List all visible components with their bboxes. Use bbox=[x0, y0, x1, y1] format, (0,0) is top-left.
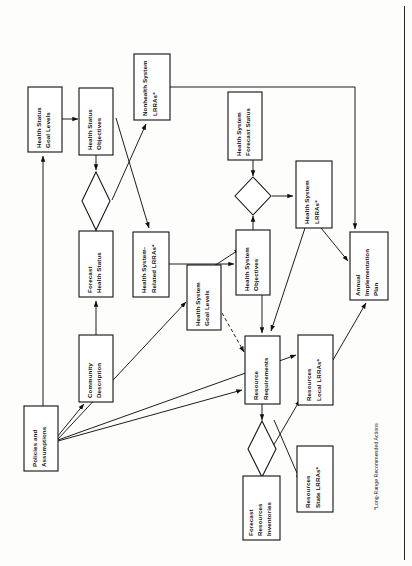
node-policies-and-assumptions[interactable]: Policies and Assumptions bbox=[24, 406, 58, 471]
node-health-status-objectives[interactable]: Health Status Objectives bbox=[79, 88, 113, 155]
node-label-line2: Health Status bbox=[95, 252, 102, 293]
node-health-system-goal-levels[interactable]: Health System Goal Levels bbox=[187, 265, 221, 330]
decision-resources bbox=[248, 421, 276, 477]
node-label-line2: LRRAs* bbox=[313, 200, 320, 224]
node-label-line2: Objectives bbox=[95, 117, 102, 150]
node-community-description[interactable]: Community Description bbox=[79, 335, 113, 402]
node-label-line1: Health System bbox=[235, 112, 242, 156]
edge-hs-lrras-to-resource-requirements bbox=[271, 228, 305, 331]
node-label-line1: Health System bbox=[243, 247, 250, 291]
node-resources-state-lrras[interactable]: Resources State LRRAs* bbox=[297, 446, 333, 512]
node-label-line1: Forecast bbox=[86, 266, 93, 293]
footnote-lrras-definition: *Long-Range Recommended Actions bbox=[373, 423, 379, 510]
node-label-line2: Goal Levels bbox=[203, 290, 210, 326]
node-label-line1: Community bbox=[86, 363, 93, 398]
node-label-line1: Health System bbox=[194, 282, 201, 326]
node-label-line1: Health Status bbox=[35, 107, 42, 148]
decision-health-system bbox=[235, 177, 271, 215]
flowchart-svg: Resource Requirements (DASHED) --> bbox=[0, 0, 412, 566]
node-label-line1: Health System- bbox=[140, 247, 147, 293]
node-label-line1: Annual bbox=[354, 274, 361, 296]
node-label-line2: State LRRAs* bbox=[314, 466, 321, 508]
node-label-line1: Nonhealth System bbox=[141, 60, 148, 116]
node-nonhealth-system-lrras[interactable]: Nonhealth System LRRAs* bbox=[134, 54, 170, 120]
node-label-line2: Requirements bbox=[262, 357, 269, 400]
node-label-line1: Forecast bbox=[247, 509, 254, 536]
node-label-line1: Health Status bbox=[86, 109, 93, 150]
edge-decision-res-to-resources-state-lrras bbox=[274, 420, 300, 480]
node-health-system-related-lrras[interactable]: Health System- Related LRRAs* bbox=[133, 232, 169, 297]
decision-health-status bbox=[82, 172, 110, 230]
node-label-line2: Local LRRAs* bbox=[315, 358, 322, 401]
decision-layer bbox=[82, 172, 276, 477]
node-health-system-objectives[interactable]: Health System Objectives bbox=[236, 230, 270, 295]
node-label-line3: Plan bbox=[372, 282, 379, 296]
node-label-line2: Implementation bbox=[363, 249, 370, 296]
edge-hs-lrras-to-annual-plan bbox=[321, 228, 348, 261]
node-label-line1: Policies and bbox=[31, 430, 38, 467]
node-resource-requirements[interactable]: Resource Requirements bbox=[245, 336, 280, 404]
figure-canvas: Resource Requirements (DASHED) --> bbox=[0, 0, 412, 566]
node-label-line2: Objectives bbox=[252, 258, 259, 291]
node-label-line1: Resources bbox=[304, 475, 311, 508]
node-label-line2: Forecast Status bbox=[244, 108, 251, 156]
node-label-line2: Resources bbox=[256, 503, 263, 536]
node-health-status-goal-levels[interactable]: Health Status Goal Levels bbox=[28, 87, 62, 152]
node-label-line2: Related LRRAs* bbox=[150, 244, 157, 293]
node-label-line2: LRRAs* bbox=[151, 92, 158, 116]
node-label-line1: Resource bbox=[252, 371, 259, 400]
node-label-line2: Description bbox=[95, 363, 102, 398]
node-annual-implementation-plan[interactable]: Annual Implementation Plan bbox=[350, 232, 388, 300]
node-health-system-lrras[interactable]: Health System LRRAs* bbox=[296, 161, 332, 228]
node-label-line2: Assumptions bbox=[40, 426, 47, 467]
node-health-system-forecast-status[interactable]: Health System Forecast Status bbox=[228, 92, 262, 160]
node-label-line2: Goal Levels bbox=[44, 112, 51, 148]
node-forecast-health-status[interactable]: Forecast Health Status bbox=[79, 231, 113, 297]
edge-policies-to-hs-goal-levels bbox=[58, 302, 186, 439]
edge-decision-hs-to-hs-related-lrras bbox=[116, 118, 149, 228]
node-label-line3: Inventories bbox=[265, 501, 272, 536]
node-label-line1: Resources bbox=[305, 368, 312, 401]
node-label-line1: Health System bbox=[303, 180, 310, 224]
edge-resources-local-lrras-to-annual-plan bbox=[333, 303, 366, 360]
node-forecast-resources-inventories[interactable]: Forecast Resources Inventories bbox=[243, 476, 280, 540]
node-resources-local-lrras[interactable]: Resources Local LRRAs* bbox=[298, 335, 333, 405]
